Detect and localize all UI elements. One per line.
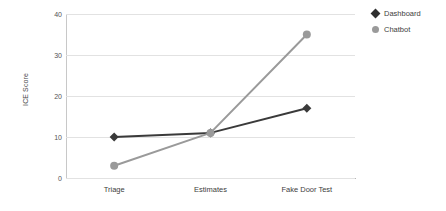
data-point-marker [207,129,215,137]
data-point-marker [110,162,118,170]
data-point-marker [303,31,311,39]
line-chart: ICE Score 010203040 TriageEstimatesFake … [0,0,446,211]
legend-label: Chatbot [384,25,410,34]
diamond-marker-icon [371,9,381,19]
legend-item[interactable]: Dashboard [372,9,421,18]
series-line-chatbot [114,35,307,166]
legend-item[interactable]: Chatbot [372,25,421,34]
chart-legend: DashboardChatbot [372,9,421,34]
circle-marker-icon [372,26,379,33]
data-point-marker [110,132,119,141]
legend-label: Dashboard [384,9,421,18]
data-point-marker [302,104,311,113]
